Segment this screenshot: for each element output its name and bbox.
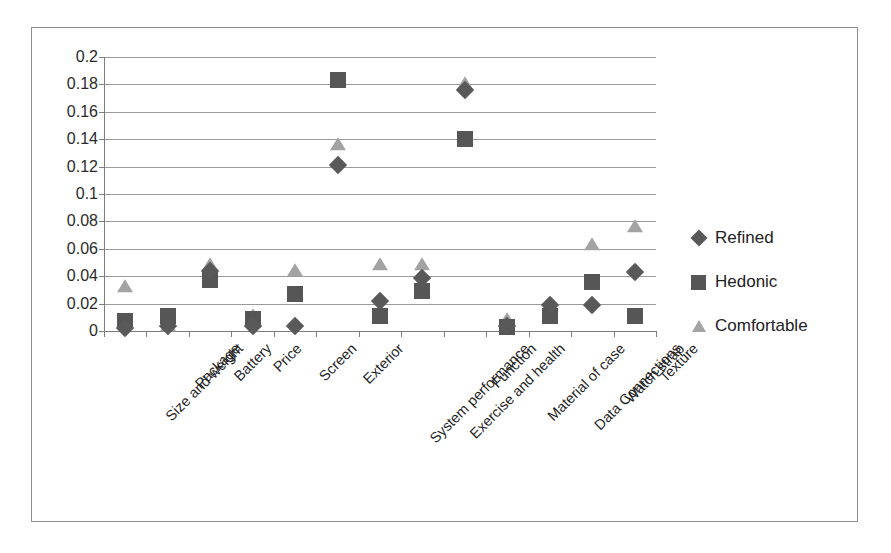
x-axis-tick-mark xyxy=(274,331,275,337)
gridline xyxy=(104,167,656,168)
data-point-square xyxy=(627,308,643,324)
y-axis-tick-label: 0.2 xyxy=(76,49,98,65)
data-point-square xyxy=(457,131,473,147)
x-axis-tick-mark xyxy=(401,331,402,337)
y-axis-tick-mark xyxy=(99,276,105,277)
y-axis-tick-mark xyxy=(99,57,105,58)
gridline xyxy=(104,276,656,277)
data-point-square xyxy=(287,286,303,302)
y-axis-tick-label: 0.06 xyxy=(67,241,98,257)
gridline xyxy=(104,112,656,113)
x-axis-tick-mark xyxy=(231,331,232,337)
gridline xyxy=(104,139,656,140)
chart-figure: 0.20.180.160.140.120.10.080.060.040.020 … xyxy=(0,0,891,553)
y-axis-tick-label: 0.1 xyxy=(76,186,98,202)
x-axis-tick-mark xyxy=(656,331,657,337)
y-axis-tick-mark xyxy=(99,304,105,305)
x-axis-tick-mark xyxy=(189,331,190,337)
x-axis-tick-mark xyxy=(359,331,360,337)
y-axis-tick-labels: 0.20.180.160.140.120.10.080.060.040.020 xyxy=(0,0,98,340)
gridline xyxy=(104,221,656,222)
gridline xyxy=(104,249,656,250)
data-point-triangle xyxy=(372,257,388,270)
x-axis-tick-mark xyxy=(529,331,530,337)
legend-label: Hedonic xyxy=(715,272,777,292)
y-axis-tick-label: 0.08 xyxy=(67,213,98,229)
triangle-marker-icon xyxy=(690,320,706,332)
y-axis-tick-mark xyxy=(99,139,105,140)
data-point-square xyxy=(372,308,388,324)
data-point-triangle xyxy=(330,137,346,150)
y-axis-tick-mark xyxy=(99,112,105,113)
y-axis-tick-mark xyxy=(99,249,105,250)
x-axis-tick-mark xyxy=(146,331,147,337)
data-point-triangle xyxy=(627,219,643,232)
y-axis-tick-label: 0.04 xyxy=(67,268,98,284)
plot-area xyxy=(104,57,656,331)
legend-item[interactable]: Hedonic xyxy=(690,260,860,304)
y-axis-tick-label: 0 xyxy=(89,323,98,339)
gridline xyxy=(104,84,656,85)
y-axis-tick-mark xyxy=(99,84,105,85)
data-point-square xyxy=(330,72,346,88)
legend-item[interactable]: Refined xyxy=(690,216,860,260)
gridline xyxy=(104,194,656,195)
x-axis-tick-mark xyxy=(104,331,105,337)
data-point-square xyxy=(584,274,600,290)
y-axis-tick-label: 0.02 xyxy=(67,296,98,312)
x-axis-tick-mark xyxy=(316,331,317,337)
x-axis-tick-mark xyxy=(571,331,572,337)
legend-label: Comfortable xyxy=(715,316,808,336)
y-axis-tick-mark xyxy=(99,167,105,168)
y-axis-tick-label: 0.12 xyxy=(67,159,98,175)
x-axis-tick-mark xyxy=(444,331,445,337)
square-marker-icon xyxy=(690,275,706,290)
gridline xyxy=(104,57,656,58)
y-axis-tick-label: 0.16 xyxy=(67,104,98,120)
y-axis-tick-label: 0.14 xyxy=(67,131,98,147)
legend-item[interactable]: Comfortable xyxy=(690,304,860,348)
x-axis-line xyxy=(104,331,656,332)
legend-label: Refined xyxy=(715,228,774,248)
x-axis-tick-mark xyxy=(614,331,615,337)
data-point-triangle xyxy=(584,237,600,250)
data-point-triangle xyxy=(117,279,133,292)
data-point-triangle xyxy=(287,263,303,276)
x-axis-tick-mark xyxy=(486,331,487,337)
y-axis-tick-mark xyxy=(99,221,105,222)
diamond-marker-icon xyxy=(690,232,706,244)
chart-legend: RefinedHedonicComfortable xyxy=(690,216,860,348)
y-axis-tick-label: 0.18 xyxy=(67,76,98,92)
y-axis-tick-mark xyxy=(99,194,105,195)
